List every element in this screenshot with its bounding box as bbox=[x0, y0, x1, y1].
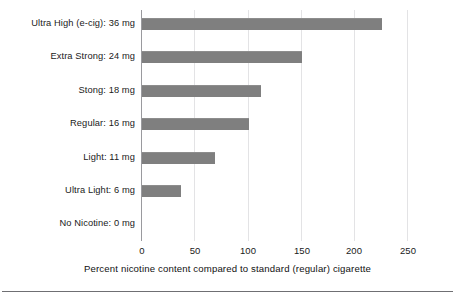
bar-fill-light bbox=[142, 152, 215, 164]
xtick-label-50: 50 bbox=[175, 245, 215, 257]
bar-light bbox=[142, 152, 215, 163]
gridline-200 bbox=[354, 10, 355, 241]
xtick-label-250: 250 bbox=[388, 245, 428, 257]
category-label-light: Light: 11 mg bbox=[3, 152, 135, 163]
x-axis-title: Percent nicotine content compared to sta… bbox=[0, 262, 455, 275]
category-label-extra-strong: Extra Strong: 24 mg bbox=[3, 51, 135, 62]
xtick-label-100: 100 bbox=[228, 245, 268, 257]
bar-stong bbox=[142, 85, 261, 96]
bar-regular bbox=[142, 118, 249, 129]
bar-ultra-light bbox=[142, 185, 181, 196]
gridline-250 bbox=[407, 10, 408, 241]
nicotine-content-bar-chart: Ultra High (e-cig): 36 mg Extra Strong: … bbox=[0, 0, 455, 307]
bar-extra-strong bbox=[142, 51, 302, 62]
category-label-ultra-high: Ultra High (e-cig): 36 mg bbox=[3, 18, 135, 29]
xtick-label-150: 150 bbox=[282, 245, 322, 257]
bottom-divider bbox=[2, 291, 453, 292]
category-label-no-nicotine: No Nicotine: 0 mg bbox=[3, 218, 135, 229]
xtick-label-0: 0 bbox=[122, 245, 162, 257]
bar-fill-extra-strong bbox=[142, 51, 302, 63]
bar-fill-stong bbox=[142, 85, 261, 97]
category-axis-labels: Ultra High (e-cig): 36 mg Extra Strong: … bbox=[0, 10, 135, 241]
category-label-ultra-light: Ultra Light: 6 mg bbox=[3, 185, 135, 196]
gridline-150 bbox=[301, 10, 302, 241]
bar-ultra-high bbox=[142, 18, 382, 29]
bar-fill-ultra-light bbox=[142, 185, 181, 197]
y-axis-line bbox=[141, 10, 142, 241]
category-label-regular: Regular: 16 mg bbox=[3, 118, 135, 129]
plot-area bbox=[141, 10, 441, 241]
bar-fill-ultra-high bbox=[142, 18, 382, 30]
category-label-stong: Stong: 18 mg bbox=[3, 85, 135, 96]
bar-fill-regular bbox=[142, 118, 249, 130]
xtick-label-200: 200 bbox=[334, 245, 374, 257]
